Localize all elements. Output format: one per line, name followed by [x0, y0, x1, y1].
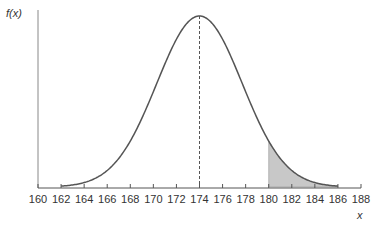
- x-axis-label: x: [356, 209, 363, 221]
- x-tick-label: 182: [283, 193, 301, 205]
- normal-distribution-chart: 1601621641661681701721741761781801821841…: [0, 0, 384, 226]
- x-tick-label: 176: [213, 193, 231, 205]
- x-tick-label: 186: [329, 193, 347, 205]
- x-tick-label: 184: [306, 193, 324, 205]
- x-tick-label: 168: [121, 193, 139, 205]
- x-tick-label: 160: [29, 193, 47, 205]
- x-tick-label: 162: [52, 193, 70, 205]
- y-axis-label: f(x): [6, 7, 22, 19]
- x-tick-label: 166: [98, 193, 116, 205]
- x-tick-label: 172: [167, 193, 185, 205]
- x-tick-label: 180: [260, 193, 278, 205]
- x-tick-label: 170: [144, 193, 162, 205]
- x-tick-label: 174: [190, 193, 208, 205]
- x-tick-label: 188: [352, 193, 370, 205]
- x-tick-label: 164: [75, 193, 93, 205]
- shaded-tail-region: [269, 141, 338, 187]
- x-tick-label: 178: [236, 193, 254, 205]
